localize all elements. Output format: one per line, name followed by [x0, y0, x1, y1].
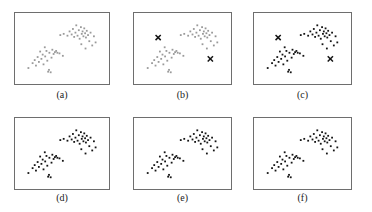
data-point: [166, 165, 168, 167]
data-point: [282, 54, 284, 56]
data-point: [162, 63, 164, 65]
data-point: [319, 134, 321, 136]
data-point: [189, 31, 191, 33]
data-point: [333, 150, 335, 152]
data-point: [55, 155, 57, 157]
data-point: [286, 50, 288, 52]
data-point: [59, 34, 61, 36]
data-point: [79, 38, 81, 40]
data-point: [168, 174, 170, 176]
data-point: [325, 132, 327, 134]
data-point: [162, 54, 164, 56]
data-point: [288, 174, 290, 176]
data-point: [59, 157, 61, 159]
data-point: [335, 140, 337, 142]
data-point: [176, 155, 178, 157]
data-point: [167, 71, 169, 73]
data-point: [170, 176, 172, 178]
centroid-marker-x: [328, 56, 333, 61]
data-point: [322, 33, 324, 35]
data-point: [209, 34, 211, 36]
data-point: [153, 59, 155, 61]
data-point: [336, 42, 338, 44]
data-point: [280, 163, 282, 165]
data-point: [284, 161, 286, 163]
data-point: [77, 35, 79, 37]
data-point: [164, 56, 166, 58]
data-point: [95, 147, 97, 149]
data-point: [156, 161, 158, 163]
panel-e: [133, 117, 232, 190]
data-point: [318, 35, 320, 37]
data-point: [321, 131, 323, 133]
data-point: [90, 32, 92, 34]
data-point: [80, 148, 82, 150]
data-point: [330, 145, 332, 147]
data-point: [51, 162, 53, 164]
data-point: [47, 71, 49, 73]
data-point: [168, 69, 170, 71]
data-point: [215, 35, 217, 37]
data-point: [170, 71, 172, 73]
data-point: [38, 61, 40, 63]
panel-c: [253, 12, 352, 85]
data-point: [56, 52, 58, 54]
data-point: [330, 40, 332, 42]
data-point: [206, 48, 208, 50]
data-point: [182, 160, 184, 162]
data-point: [53, 53, 55, 55]
data-point: [302, 55, 304, 57]
data-point: [307, 35, 309, 37]
data-point: [276, 56, 278, 58]
data-point: [291, 162, 293, 164]
data-point: [155, 65, 157, 67]
data-point: [326, 137, 328, 139]
data-point: [151, 167, 153, 169]
data-point: [49, 52, 51, 54]
data-point: [183, 138, 185, 140]
data-point: [49, 157, 51, 159]
data-point: [164, 46, 166, 48]
data-point: [278, 61, 280, 63]
data-point: [204, 140, 206, 142]
data-point: [160, 163, 162, 165]
panel-d-caption: (d): [14, 192, 110, 203]
data-point: [42, 159, 44, 161]
data-point: [73, 36, 75, 38]
data-point: [192, 34, 194, 36]
data-point: [326, 32, 328, 34]
data-point: [296, 155, 298, 157]
panel-b: [133, 12, 232, 85]
data-point: [69, 136, 71, 138]
panel-a-caption: (a): [14, 89, 110, 100]
data-point: [172, 154, 174, 156]
data-point: [290, 176, 292, 178]
data-point: [37, 56, 39, 58]
data-point: [159, 156, 161, 158]
data-point: [290, 71, 292, 73]
data-point: [71, 139, 73, 141]
data-point: [192, 139, 194, 141]
data-point: [336, 147, 338, 149]
data-point: [206, 37, 208, 39]
data-point: [75, 32, 77, 34]
data-point: [169, 157, 171, 159]
data-point: [271, 62, 273, 64]
data-point: [83, 27, 85, 29]
data-point: [316, 129, 318, 131]
data-point: [167, 176, 169, 178]
panel-c-caption: (c): [253, 89, 352, 100]
data-point: [71, 34, 73, 36]
data-point: [322, 148, 324, 150]
data-point: [324, 140, 326, 142]
data-point: [200, 38, 202, 40]
data-point: [326, 48, 328, 50]
data-point: [28, 67, 30, 69]
panel-a: [14, 12, 110, 85]
centroid-marker-x: [156, 35, 161, 40]
data-point: [85, 37, 87, 39]
panel-f: [253, 117, 352, 190]
data-point: [83, 132, 85, 134]
data-point: [169, 52, 171, 54]
data-point: [273, 59, 275, 61]
